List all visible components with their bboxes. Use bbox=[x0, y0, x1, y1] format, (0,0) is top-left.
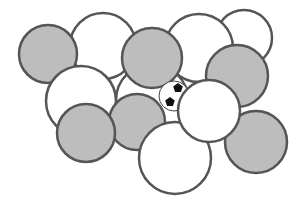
player-circle-white-right-center bbox=[178, 80, 240, 142]
player-circle-gray-top-center bbox=[122, 28, 182, 88]
player-circles bbox=[19, 10, 287, 194]
front-player-circles bbox=[178, 80, 240, 142]
players-diagram bbox=[0, 0, 305, 205]
player-circle-gray-left-bottom bbox=[57, 104, 115, 162]
